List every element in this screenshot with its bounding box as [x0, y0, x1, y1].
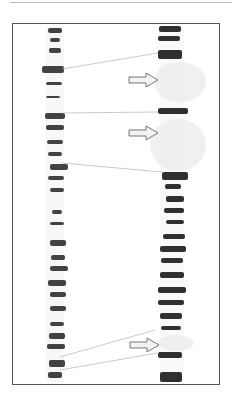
left-band [42, 66, 64, 73]
left-band [48, 176, 64, 180]
right-band [160, 313, 182, 319]
left-band [48, 152, 62, 156]
right-band [162, 172, 188, 180]
left-band [50, 266, 68, 271]
left-band [46, 96, 60, 98]
right-band [161, 258, 183, 263]
left-band [50, 292, 66, 297]
left-band [48, 280, 66, 286]
connector-line [62, 53, 158, 69]
connector-line [62, 112, 158, 113]
connector-line [60, 353, 157, 370]
arrow-icon [129, 73, 158, 87]
left-band [46, 125, 64, 130]
left-band [50, 188, 64, 192]
left-band [46, 82, 62, 85]
right-band [158, 36, 180, 41]
left-band [49, 48, 61, 53]
right-band [160, 372, 182, 382]
right-band [158, 108, 188, 114]
right-band [158, 287, 186, 293]
right-band [158, 352, 182, 358]
right-band [160, 272, 184, 278]
left-band [50, 240, 66, 246]
left-band [49, 333, 65, 339]
left-band [47, 344, 65, 349]
right-band [161, 326, 181, 330]
left-band [50, 38, 60, 42]
right-band [158, 50, 182, 59]
left-band [48, 28, 62, 33]
left-band [50, 222, 64, 225]
connector-line [62, 163, 162, 172]
right-band [165, 184, 181, 189]
left-band [48, 372, 62, 378]
left-band [47, 140, 63, 144]
right-band [164, 208, 184, 213]
left-band [50, 164, 68, 170]
right-band [160, 246, 186, 252]
left-band [52, 210, 62, 214]
left-band [45, 113, 65, 119]
left-chromosome [46, 26, 64, 382]
left-band [50, 306, 66, 311]
right-band [159, 26, 181, 32]
right-band [166, 220, 184, 224]
left-band [51, 255, 65, 260]
arrow-icon [130, 338, 159, 352]
right-band [163, 234, 185, 239]
right-band [166, 196, 184, 202]
chromosome-figure [0, 0, 232, 407]
right-band [158, 300, 184, 305]
left-band [49, 360, 65, 367]
left-band [50, 322, 64, 326]
